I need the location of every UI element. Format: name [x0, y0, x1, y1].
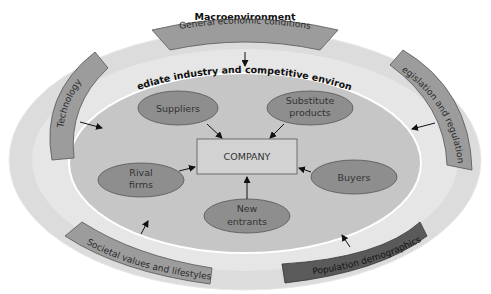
force-buyers: Buyers [311, 160, 397, 194]
force-substitute-products: Substitute products [267, 91, 353, 125]
svg-text:entrants: entrants [227, 216, 267, 227]
svg-text:Substitute: Substitute [286, 95, 335, 106]
force-new-entrants: New entrants [204, 199, 290, 233]
svg-text:firms: firms [129, 179, 153, 190]
force-suppliers: Suppliers [138, 91, 218, 125]
svg-text:New: New [237, 203, 258, 214]
svg-text:Buyers: Buyers [338, 172, 371, 183]
svg-text:products: products [289, 107, 331, 118]
company-box: COMPANY [197, 139, 297, 174]
svg-text:COMPANY: COMPANY [224, 151, 271, 162]
svg-text:Suppliers: Suppliers [156, 103, 200, 114]
force-rival-firms: Rival firms [98, 163, 184, 197]
macroenvironment-diagram: Macroenvironment General economic condit… [0, 0, 491, 294]
svg-text:Rival: Rival [129, 167, 152, 178]
